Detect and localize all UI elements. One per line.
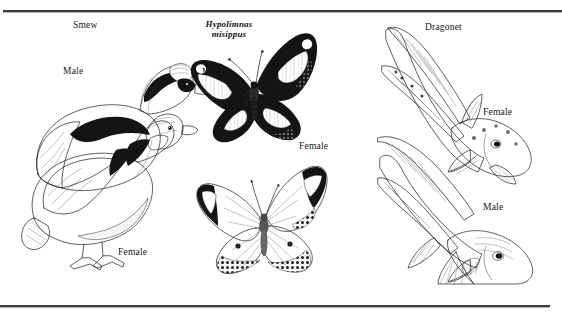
butterfly-species-label: Hypolimnas misippus [190,19,268,40]
hypolimnas-male-figure [186,28,326,148]
dragonet-figure [378,22,560,284]
butterfly-female-illustration [197,166,327,273]
dragonet-female-label: Female [483,107,512,118]
butterfly-male-label: Male [202,67,222,78]
dragonet-title-label: Dragonet [425,22,462,33]
butterfly-male-illustration [191,33,317,142]
hypolimnas-female-figure [190,160,338,278]
smew-figure [18,22,193,282]
butterfly-species-epithet: misippus [212,29,247,39]
dragonet-male-label: Male [483,202,503,213]
smew-female-illustration [22,114,198,270]
bottom-rule [0,305,550,307]
illustration-plate: Smew Male Female Hypolimnas misippus Mal… [0,0,562,319]
butterfly-genus: Hypolimnas [205,19,252,29]
butterfly-female-label: Female [299,141,328,152]
top-rule [3,10,562,12]
smew-female-label: Female [118,247,147,258]
dragonet-female-illustration [382,27,531,184]
smew-male-label: Male [63,66,83,77]
smew-title-label: Smew [73,20,98,31]
dragonet-male-illustration [378,137,533,284]
